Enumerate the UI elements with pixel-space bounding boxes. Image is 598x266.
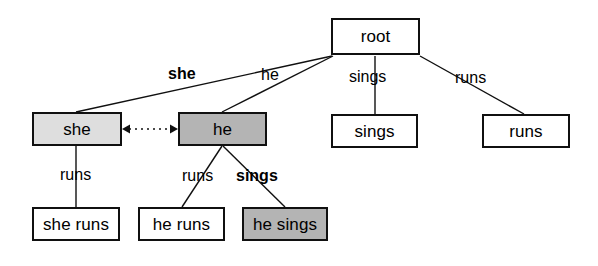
equivalence-link (122, 125, 178, 134)
tree-diagram: rootshehesingsrunsshe runshe runshe sing… (0, 0, 598, 266)
node-label: root (361, 28, 391, 45)
edge-label-she-to-she_runs: runs (60, 167, 91, 183)
node-label: he sings (253, 216, 317, 233)
tree-edge-root-to-she (76, 56, 332, 112)
node-label: she (63, 121, 91, 138)
node-label: he (213, 121, 232, 138)
node-label: sings (354, 123, 394, 140)
node-she_runs[interactable]: she runs (32, 207, 120, 241)
node-he_sings[interactable]: he sings (242, 207, 328, 241)
edge-label-root-to-he: he (261, 67, 279, 83)
node-label: runs (509, 123, 542, 140)
node-he_runs[interactable]: he runs (138, 207, 225, 241)
node-she[interactable]: she (32, 112, 122, 146)
edge-label-root-to-she: she (168, 66, 196, 82)
node-label: she runs (43, 216, 109, 233)
node-root[interactable]: root (331, 18, 420, 55)
node-runs[interactable]: runs (482, 114, 570, 148)
arrowhead-right-icon (170, 125, 178, 134)
edge-label-root-to-runs: runs (455, 70, 486, 86)
edge-label-he-to-he_runs: runs (182, 168, 213, 184)
edge-label-root-to-sings: sings (349, 69, 386, 85)
node-he[interactable]: he (178, 112, 267, 146)
edge-label-he-to-he_sings: sings (236, 168, 278, 184)
node-sings[interactable]: sings (331, 114, 418, 148)
node-label: he runs (153, 216, 210, 233)
tree-edge-root-to-he (222, 56, 333, 112)
arrowhead-left-icon (122, 125, 130, 134)
